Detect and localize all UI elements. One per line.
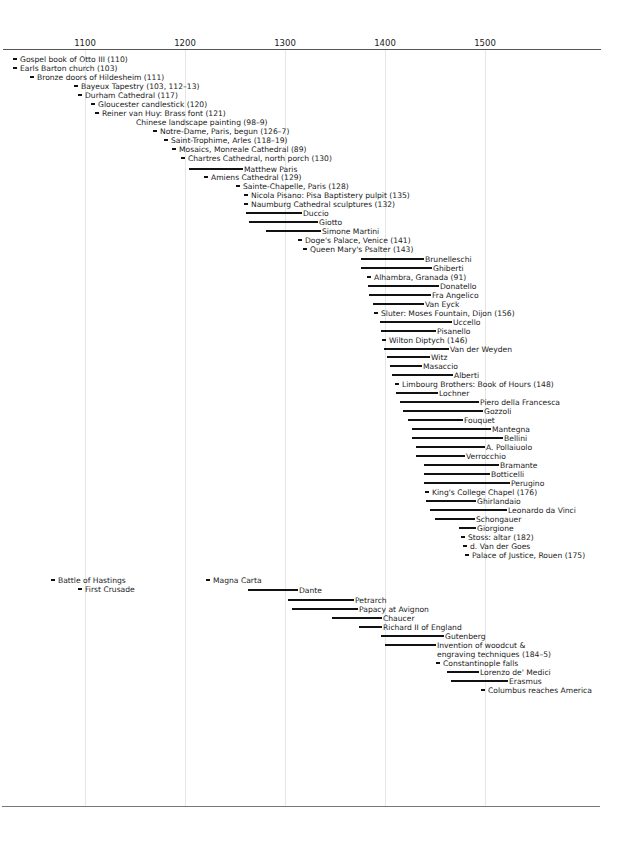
point-marker-icon — [181, 157, 185, 160]
duration-bar — [396, 392, 438, 394]
event-label: Piero della Francesca — [480, 398, 560, 407]
point-marker-icon — [382, 339, 386, 342]
point-marker-icon — [204, 176, 208, 179]
timeline-event: Earls Barton church (103) — [13, 64, 117, 73]
timeline-event: Gospel book of Otto III (110) — [13, 55, 128, 64]
event-label: Wilton Diptych (146) — [389, 336, 467, 345]
event-label: Chartres Cathedral, north porch (130) — [188, 154, 332, 163]
timeline-span: Simone Martini — [266, 227, 379, 236]
event-label: Duccio — [303, 209, 329, 218]
timeline-event: Magna Carta — [206, 576, 262, 585]
duration-bar — [403, 410, 483, 412]
timeline-span: Piero della Francesca — [400, 398, 560, 407]
timeline-span: Pisanello — [381, 327, 470, 336]
event-label: Schongauer — [476, 515, 521, 524]
timeline-span: Bellini — [412, 434, 527, 443]
timeline-event: Queen Mary's Psalter (143) — [303, 245, 413, 254]
event-label: Naumburg Cathedral sculptures (132) — [251, 200, 395, 209]
timeline-span: Chaucer — [332, 614, 415, 623]
point-marker-icon — [298, 239, 302, 242]
timeline-span: Giorgione — [459, 524, 514, 533]
duration-bar — [189, 168, 243, 170]
duration-bar — [368, 285, 439, 287]
point-marker-icon — [461, 536, 465, 539]
timeline-event: Limbourg Brothers: Book of Hours (148) — [395, 380, 554, 389]
point-marker-icon — [395, 383, 399, 386]
timeline-event: Stoss: altar (182) — [461, 533, 534, 542]
timeline-span: Invention of woodcut & engraving techniq… — [385, 641, 552, 659]
timeline-event: Nicola Pisano: Pisa Baptistery pulpit (1… — [244, 191, 410, 200]
point-marker-icon — [367, 276, 371, 279]
point-marker-icon — [153, 130, 157, 133]
event-label: Pisanello — [437, 327, 470, 336]
point-marker-icon — [236, 185, 240, 188]
event-label: Stoss: altar (182) — [468, 533, 534, 542]
duration-bar — [332, 617, 382, 619]
duration-bar — [412, 437, 503, 439]
event-label: Van der Weyden — [450, 345, 512, 354]
duration-bar — [266, 230, 321, 232]
timeline-span: Lochner — [396, 389, 469, 398]
point-marker-icon — [436, 662, 440, 665]
duration-bar — [426, 500, 476, 502]
event-label: Witz — [431, 353, 447, 362]
event-label: Constantinople falls — [443, 659, 518, 668]
duration-bar — [400, 401, 479, 403]
timeline-event: Chinese landscape painting (98–9) — [136, 118, 268, 127]
point-marker-icon — [172, 148, 176, 151]
timeline-event: Constantinople falls — [436, 659, 518, 668]
axis-tick-label: 1200 — [174, 38, 196, 48]
event-label: Botticelli — [491, 470, 524, 479]
timeline-event: Naumburg Cathedral sculptures (132) — [244, 200, 395, 209]
timeline-event: Palace of Justice, Rouen (175) — [465, 551, 585, 560]
timeline-span: Verrocchio — [416, 452, 506, 461]
timeline-event: Bayeux Tapestry (103, 112–13) — [74, 82, 199, 91]
duration-bar — [381, 635, 444, 637]
duration-bar — [447, 671, 479, 673]
top-axis-line — [3, 49, 601, 50]
duration-bar — [292, 608, 358, 610]
timeline-event: King's College Chapel (176) — [425, 488, 537, 497]
duration-bar — [416, 446, 485, 448]
duration-bar — [459, 527, 476, 529]
point-marker-icon — [425, 491, 429, 494]
event-label: Sainte-Chapelle, Paris (128) — [243, 182, 349, 191]
duration-bar — [435, 518, 475, 520]
duration-bar — [246, 212, 302, 214]
event-label: Perugino — [511, 479, 544, 488]
event-label: Bramante — [500, 461, 538, 470]
timeline-span: Brunelleschi — [361, 255, 472, 264]
timeline-span: Erasmus — [451, 677, 542, 686]
duration-bar — [387, 356, 430, 358]
event-label: Van Eyck — [425, 300, 459, 309]
point-marker-icon — [91, 103, 95, 106]
event-label: Chinese landscape painting (98–9) — [136, 118, 268, 127]
event-label: Ghirlandaio — [477, 497, 521, 506]
point-marker-icon — [481, 689, 485, 692]
duration-bar — [424, 473, 490, 475]
event-label: Verrocchio — [466, 452, 506, 461]
event-label: Palace of Justice, Rouen (175) — [472, 551, 585, 560]
event-label: A. Pollaiuolo — [486, 443, 532, 452]
timeline-span: Petrarch — [288, 596, 387, 605]
duration-bar — [248, 589, 298, 591]
event-label: Giotto — [319, 218, 342, 227]
point-marker-icon — [30, 76, 34, 79]
point-marker-icon — [164, 139, 168, 142]
axis-tick-label: 1500 — [474, 38, 496, 48]
timeline-span: Bramante — [424, 461, 538, 470]
event-label: Sluter: Moses Fountain, Dijon (156) — [381, 309, 515, 318]
event-label: Brunelleschi — [425, 255, 472, 264]
event-label: Chaucer — [383, 614, 415, 623]
timeline-span: Fouquet — [408, 416, 495, 425]
event-label: Columbus reaches America — [488, 686, 592, 695]
point-marker-icon — [303, 248, 307, 251]
bottom-axis-line — [2, 806, 600, 807]
duration-bar — [408, 419, 463, 421]
timeline-span: Gozzoli — [403, 407, 511, 416]
point-marker-icon — [78, 588, 82, 591]
point-marker-icon — [74, 85, 78, 88]
event-label: Giorgione — [477, 524, 514, 533]
timeline-span: Duccio — [246, 209, 329, 218]
event-label: Lochner — [439, 389, 469, 398]
